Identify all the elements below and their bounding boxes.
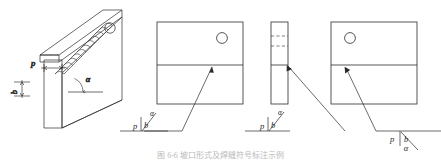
plate-outline-right (331, 22, 417, 104)
figure-caption: 图 6-6 坡口形式及焊缝符号标注示例 (0, 151, 441, 160)
base-plate-outline (62, 17, 122, 128)
figure-caption-row: 图 6-6 坡口形式及焊缝符号标注示例 (0, 151, 441, 160)
label-angle-alpha-strip: α (278, 108, 283, 117)
panel-front-view-right (331, 22, 441, 131)
leader-arrowhead-right (345, 67, 351, 74)
technical-drawing-figure: α p b p b α (0, 0, 441, 160)
label-root-b-left: b (144, 120, 148, 130)
label-root-b-strip: b (271, 120, 275, 130)
angle-arc-tick (83, 90, 85, 93)
leader-arrowhead-strip (287, 65, 292, 71)
leader-line-left (144, 67, 212, 131)
label-gap-p-left: p (132, 121, 137, 131)
label-angle-alpha-isometric: α (86, 74, 91, 84)
back-plate-front-face (40, 55, 59, 62)
panel-front-view-left (144, 22, 243, 131)
panel-isometric-joint: α p b (9, 10, 122, 128)
angle-arc (75, 79, 84, 93)
label-angle-alpha-left: α (150, 109, 155, 118)
weld-symbol-strip (245, 112, 290, 131)
label-root-b-isometric: b (9, 90, 19, 94)
strip-outline (271, 22, 288, 104)
detail-circle-marker-left (217, 33, 228, 44)
label-gap-p-strip: p (259, 121, 264, 131)
weld-symbol-right (400, 131, 418, 150)
leader-line-strip (288, 66, 345, 131)
leader-line-right (346, 68, 441, 131)
base-plate-bottom-edge (62, 100, 122, 128)
plate-outline-left (157, 22, 243, 104)
dimension-root-b (14, 80, 30, 98)
detail-circle-marker-right (345, 33, 356, 44)
label-gap-p-isometric: p (30, 58, 35, 68)
label-gap-p-right: p (389, 134, 394, 144)
weld-bead-hatching (55, 23, 112, 74)
dimension-gap-p (41, 64, 65, 72)
vertical-plate-face (44, 60, 62, 128)
